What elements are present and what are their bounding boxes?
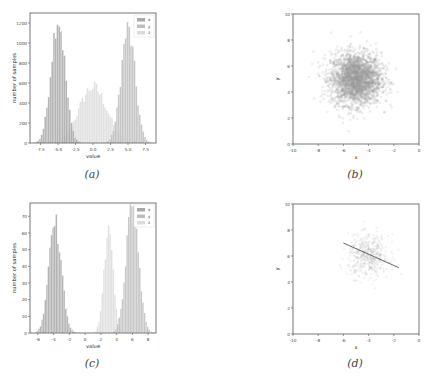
x-tick-label: -7.5 [36,147,45,152]
x-tick-label: 0 [84,337,87,342]
legend-swatch-z [137,31,145,35]
caption-a: (a) [72,168,112,181]
x-tick-label: -6 [341,148,346,153]
scatter-d: -10-8-6-4-200246810xy [216,190,432,385]
x-tick-label: -2 [392,338,397,343]
plot-frame [293,204,419,334]
caption-c: (c) [72,357,112,370]
caption-d: (d) [335,357,375,370]
legend-swatch-x [137,18,145,22]
caption-b: (b) [335,168,375,181]
x-tick-label: -8 [316,338,321,343]
y-tick-label: 20 [22,297,28,302]
y-tick-label: 50 [22,247,28,252]
x-axis-label: x [354,344,357,350]
x-tick-label: 6 [131,337,134,342]
y-tick-label: 10 [22,314,28,319]
y-tick-label: 2 [287,306,290,311]
x-tick-label: 4 [115,337,118,342]
x-tick-label: -2 [67,337,72,342]
legend: xyz [134,15,154,37]
y-tick-label: 1200 [16,21,27,26]
scatter-b: -10-8-6-4-200246810xy [216,0,432,190]
x-tick-label: -8 [316,148,321,153]
x-tick-label: 2.5 [107,147,114,152]
y-tick-label: 8 [287,228,290,233]
y-tick-label: 800 [19,61,27,66]
x-tick-label: -5.0 [54,147,63,152]
histogram-c: -6-4-202468010203040506070valuenumber of… [0,190,216,385]
y-tick-label: 0 [287,332,290,337]
y-tick-label: 400 [19,101,27,106]
histogram-bars [36,22,152,143]
x-tick-label: -6 [36,337,41,342]
x-tick-label: 8 [147,337,150,342]
y-tick-label: 0 [287,142,290,147]
legend-swatch-y [137,215,145,219]
y-tick-label: 30 [22,281,28,286]
legend-swatch-x [137,208,145,212]
x-tick-label: 0.0 [90,147,97,152]
x-tick-label: -6 [341,338,346,343]
y-axis-label: y [274,267,281,270]
x-tick-label: -10 [290,148,297,153]
y-tick-label: 0 [24,141,27,146]
x-tick-label: -4 [367,148,372,153]
x-tick-label: -2 [392,148,397,153]
y-tick-label: 70 [22,214,28,219]
x-axis-label: value [86,153,100,159]
legend-label-z: z [148,220,150,225]
y-tick-label: 0 [24,331,27,336]
x-axis-label: value [86,343,100,349]
y-tick-label: 2 [287,116,290,121]
x-tick-label: 5.0 [125,147,132,152]
y-tick-label: 40 [22,264,28,269]
y-tick-label: 6 [287,64,290,69]
y-axis-label: y [274,77,281,80]
y-axis-label: number of samples [11,243,18,293]
x-tick-label: -4 [52,337,57,342]
legend-label-z: z [148,30,150,35]
y-tick-label: 8 [287,38,290,43]
y-tick-label: 1000 [16,41,27,46]
x-tick-label: 0 [418,148,421,153]
legend-swatch-z [137,221,145,225]
scatter-points [307,31,399,132]
x-tick-label: -2.5 [71,147,80,152]
y-tick-label: 4 [287,280,290,285]
y-tick-label: 6 [287,254,290,259]
y-tick-label: 4 [287,90,290,95]
legend-swatch-y [137,25,145,29]
x-tick-label: 0 [418,338,421,343]
x-tick-label: -4 [367,338,372,343]
legend: xyz [134,205,154,227]
y-axis-label: number of samples [11,53,18,103]
histogram-a: -7.5-5.0-2.50.02.55.07.50200400600800100… [0,0,216,190]
x-tick-label: 7.5 [142,147,149,152]
y-tick-label: 60 [22,231,28,236]
x-tick-label: -10 [290,338,297,343]
y-tick-label: 10 [285,12,291,17]
y-tick-label: 10 [285,202,291,207]
x-axis-label: x [354,154,357,160]
y-tick-label: 200 [19,121,27,126]
y-tick-label: 600 [19,81,27,86]
x-tick-label: 2 [100,337,103,342]
